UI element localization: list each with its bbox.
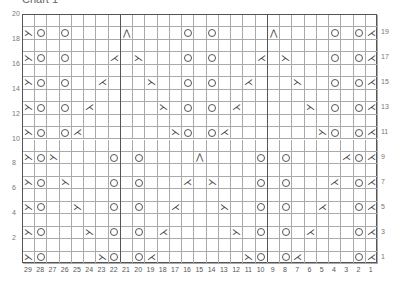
- column-label: 18: [157, 266, 169, 273]
- chart-cell: [354, 152, 366, 164]
- chart-cell: [243, 177, 255, 189]
- chart-cell: [317, 164, 329, 176]
- chart-cell: [170, 239, 182, 251]
- column-label: 28: [34, 266, 46, 273]
- chart-cell: [96, 27, 108, 39]
- chart-cell: [145, 27, 157, 39]
- yarn-over-symbol: [208, 79, 216, 87]
- ssk-symbol: ⋋: [293, 78, 302, 87]
- chart-cell: [182, 52, 194, 64]
- chart-cell: [354, 102, 366, 114]
- chart-cell: [145, 140, 157, 152]
- chart-cell: [292, 65, 304, 77]
- k2tog-symbol: ⋌: [85, 103, 94, 112]
- chart-cell: [231, 152, 243, 164]
- chart-cell: ⋌: [243, 77, 255, 89]
- chart-cell: [317, 227, 329, 239]
- chart-cell: [207, 127, 219, 139]
- chart-cell: [84, 115, 96, 127]
- yarn-over-symbol: [331, 79, 339, 87]
- chart-cell: [23, 239, 35, 251]
- chart-cell: [354, 140, 366, 152]
- chart-cell: [35, 164, 47, 176]
- chart-cell: [194, 77, 206, 89]
- chart-cell: [170, 164, 182, 176]
- chart-cell: [84, 127, 96, 139]
- chart-cell: [341, 40, 353, 52]
- yarn-over-symbol: [282, 253, 290, 261]
- row-label-left: 20: [12, 10, 20, 17]
- ssk-symbol: ⋋: [24, 203, 33, 212]
- chart-cell: [145, 65, 157, 77]
- chart-cell: [341, 214, 353, 226]
- yarn-over-symbol: [208, 54, 216, 62]
- chart-cell: ⋋: [47, 152, 59, 164]
- row-label-right: 13: [381, 103, 389, 110]
- chart-cell: [329, 40, 341, 52]
- chart-cell: [158, 164, 170, 176]
- chart-cell: [341, 140, 353, 152]
- chart-cell: [341, 77, 353, 89]
- yarn-over-symbol: [61, 54, 69, 62]
- yarn-over-symbol: [110, 179, 118, 187]
- chart-cell: [341, 202, 353, 214]
- chart-cell: [133, 115, 145, 127]
- chart-cell: [317, 152, 329, 164]
- chart-cell: [158, 127, 170, 139]
- chart-cell: [366, 214, 378, 226]
- chart-cell: [207, 227, 219, 239]
- column-label: 21: [120, 266, 132, 273]
- chart-cell: [182, 102, 194, 114]
- row-label-left: 4: [12, 209, 16, 216]
- chart-cell: [231, 164, 243, 176]
- chart-cell: [231, 52, 243, 64]
- chart-cell: [207, 27, 219, 39]
- chart-cell: [219, 15, 231, 27]
- chart-cell: [280, 177, 292, 189]
- chart-cell: ⋋: [60, 177, 72, 189]
- chart-cell: ⋋: [23, 152, 35, 164]
- chart-cell: [145, 227, 157, 239]
- chart-cell: [133, 15, 145, 27]
- chart-cell: [231, 214, 243, 226]
- column-label: 16: [181, 266, 193, 273]
- row-label-right: 3: [381, 228, 385, 235]
- yarn-over-symbol: [282, 228, 290, 236]
- chart-cell: [305, 90, 317, 102]
- k2tog-symbol: ⋌: [367, 103, 376, 112]
- cdd-symbol: ⋀: [123, 29, 130, 38]
- chart-cell: [341, 239, 353, 251]
- chart-cell: [231, 177, 243, 189]
- row-label-right: 9: [381, 153, 385, 160]
- column-label: 13: [218, 266, 230, 273]
- yarn-over-symbol: [37, 253, 45, 261]
- k2tog-symbol: ⋌: [342, 153, 351, 162]
- chart-cell: [47, 252, 59, 264]
- k2tog-symbol: ⋌: [330, 178, 339, 187]
- k2tog-symbol: ⋌: [73, 128, 82, 137]
- chart-cell: [317, 102, 329, 114]
- chart-cell: [268, 65, 280, 77]
- chart-cell: [84, 15, 96, 27]
- chart-cell: [158, 177, 170, 189]
- k2tog-symbol: ⋌: [367, 78, 376, 87]
- yarn-over-symbol: [355, 179, 363, 187]
- chart-cell: ⋌: [170, 202, 182, 214]
- chart-cell: [305, 252, 317, 264]
- chart-cell: [23, 214, 35, 226]
- ssk-symbol: ⋋: [98, 253, 107, 262]
- chart-cell: [280, 214, 292, 226]
- k2tog-symbol: ⋌: [367, 128, 376, 137]
- chart-cell: [145, 102, 157, 114]
- chart-cell: [354, 27, 366, 39]
- chart-cell: [96, 140, 108, 152]
- yarn-over-symbol: [37, 154, 45, 162]
- cdd-symbol: ⋀: [270, 29, 277, 38]
- chart-cell: [145, 115, 157, 127]
- chart-cell: [96, 239, 108, 251]
- yarn-over-symbol: [184, 54, 192, 62]
- chart-cell: [133, 239, 145, 251]
- ssk-symbol: ⋋: [61, 178, 70, 187]
- chart-cell: [96, 52, 108, 64]
- chart-cell: [194, 102, 206, 114]
